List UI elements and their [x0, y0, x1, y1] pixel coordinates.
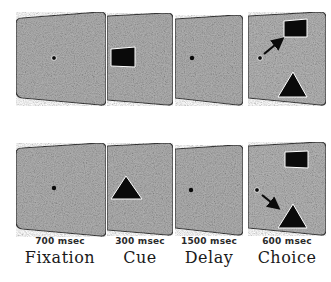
- fixation-point-icon: [190, 56, 194, 60]
- bottom-choice-panel: [248, 142, 326, 235]
- bottom-delay-panel: [175, 145, 243, 235]
- fixation-label: Fixation: [15, 248, 105, 267]
- bottom-fixation-panel: [16, 143, 106, 236]
- square-target-icon: [285, 151, 308, 168]
- choice-label: Choice: [242, 248, 331, 267]
- delay-label: Delay: [164, 248, 254, 267]
- bottom-cue-panel: [107, 143, 173, 235]
- fixation-point-icon: [52, 186, 56, 190]
- fixation-duration: 700 msec: [20, 236, 100, 246]
- fixation-point-icon: [189, 188, 193, 192]
- cue-duration: 300 msec: [100, 236, 180, 246]
- delay-duration: 1500 msec: [169, 236, 249, 246]
- choice-duration: 600 msec: [247, 236, 327, 246]
- square-cue-icon: [111, 47, 135, 67]
- fixation-point-icon: [255, 188, 260, 193]
- fixation-point-icon: [258, 56, 263, 61]
- fixation-point-icon: [52, 56, 57, 61]
- square-target-icon: [284, 19, 307, 37]
- top-cue-panel: [107, 13, 173, 105]
- top-delay-panel: [175, 15, 243, 105]
- top-choice-panel: [248, 12, 326, 105]
- top-fixation-panel: [16, 12, 106, 105]
